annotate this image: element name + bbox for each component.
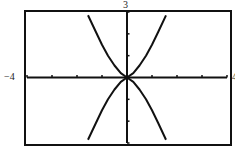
curve-upper-left [88, 15, 127, 77]
curve-upper-right [127, 15, 166, 77]
graph-plot [0, 0, 235, 147]
curve-lower-right [127, 78, 166, 140]
curve-lower-left [88, 78, 127, 140]
